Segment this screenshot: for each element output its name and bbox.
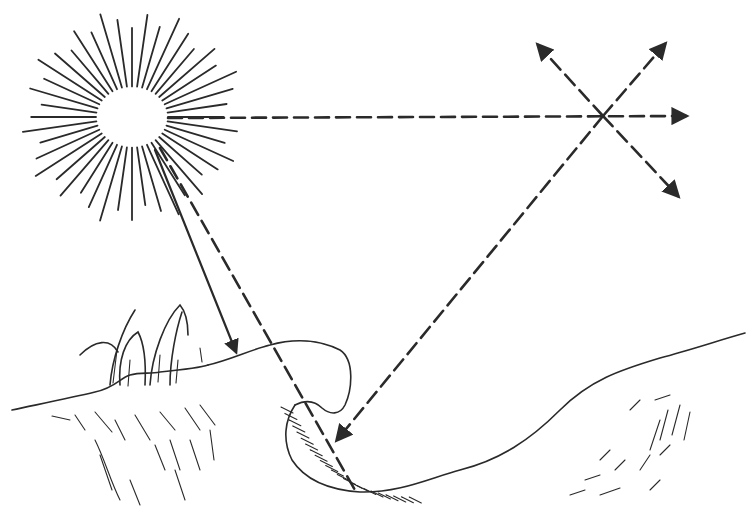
scatter-ray-up-left xyxy=(538,45,603,116)
scatter-ray-down-right xyxy=(603,116,678,196)
ground-right xyxy=(286,333,745,495)
diffuse-ray-to-ground xyxy=(337,116,603,440)
horizontal-ray xyxy=(168,116,686,118)
second-ray xyxy=(160,148,355,490)
diagram-svg xyxy=(0,0,753,526)
diagram-canvas: Line drawing of sunlight: direct and dif… xyxy=(0,0,753,526)
ground-left xyxy=(12,305,351,505)
scatter-ray-up-right xyxy=(603,44,665,116)
scatter-point xyxy=(337,44,678,440)
sun-icon xyxy=(23,14,237,220)
